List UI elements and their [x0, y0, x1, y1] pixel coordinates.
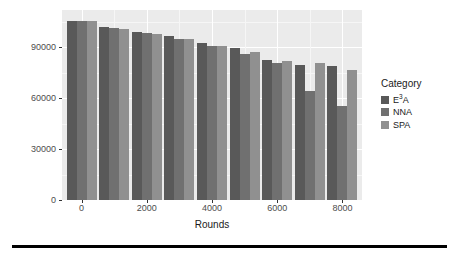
x-tick-mark [342, 200, 343, 203]
y-tick-mark [59, 200, 62, 201]
bar [217, 46, 227, 200]
y-tick-label: 30000 [31, 145, 56, 154]
bar [164, 36, 174, 200]
bar [347, 70, 357, 200]
x-tick-mark [82, 200, 83, 203]
bar-group [262, 10, 292, 200]
bar [119, 29, 129, 200]
bar [174, 39, 184, 200]
y-tick-mark [59, 47, 62, 48]
legend: Category E3ANNASPA [381, 78, 459, 132]
bar-group [164, 10, 194, 200]
x-tick-mark [277, 200, 278, 203]
bar [184, 39, 194, 200]
bar-series-container [62, 10, 362, 200]
plot-panel [62, 10, 362, 200]
bar-group [327, 10, 357, 200]
bar-group [295, 10, 325, 200]
bar [315, 63, 325, 200]
legend-swatch-icon [381, 108, 389, 116]
bar [337, 106, 347, 200]
bar [87, 21, 97, 200]
x-tick-label: 8000 [312, 204, 372, 213]
legend-item-label: E3A [393, 95, 409, 105]
legend-item[interactable]: NNA [381, 107, 459, 118]
x-tick-label: 0 [52, 204, 112, 213]
bar-group [132, 10, 162, 200]
legend-item-label: NNA [393, 107, 412, 117]
legend-items: E3ANNASPA [381, 94, 459, 130]
x-tick-mark [212, 200, 213, 203]
bar [67, 21, 77, 200]
legend-item[interactable]: SPA [381, 119, 459, 130]
legend-item[interactable]: E3A [381, 94, 459, 105]
bar [305, 91, 315, 200]
bar [132, 32, 142, 200]
x-tick-mark [147, 200, 148, 203]
bar-group [67, 10, 97, 200]
y-tick-mark [59, 98, 62, 99]
bar [250, 52, 260, 200]
bar-group [230, 10, 260, 200]
y-tick-mark [59, 149, 62, 150]
legend-title: Category [381, 78, 459, 89]
bar-group [197, 10, 227, 200]
x-tick-label: 2000 [117, 204, 177, 213]
legend-swatch-icon [381, 96, 389, 104]
bar [230, 48, 240, 200]
bar [207, 46, 217, 200]
footer-rule [12, 245, 447, 248]
x-tick-label: 4000 [182, 204, 242, 213]
bar [99, 27, 109, 200]
bar [272, 63, 282, 200]
bar [262, 60, 272, 200]
bar [77, 21, 87, 200]
bar [197, 43, 207, 200]
x-tick-label: 6000 [247, 204, 307, 213]
bar [295, 65, 305, 200]
bar [327, 66, 337, 200]
chart-figure: 0300006000090000 02000400060008000 Remai… [0, 0, 459, 256]
x-axis-label: Rounds [62, 219, 362, 230]
bar [142, 33, 152, 200]
bar [152, 34, 162, 200]
bar [240, 54, 250, 200]
legend-item-label: SPA [393, 120, 410, 130]
bar-group [99, 10, 129, 200]
bar [109, 28, 119, 200]
y-tick-label: 90000 [31, 43, 56, 52]
legend-swatch-icon [381, 121, 389, 129]
y-tick-label: 60000 [31, 94, 56, 103]
bar [282, 61, 292, 200]
